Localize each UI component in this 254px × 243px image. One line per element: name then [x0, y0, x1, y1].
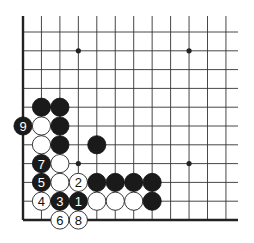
white-stone-icon [32, 117, 50, 135]
black-stone [88, 136, 106, 154]
black-stone [143, 173, 161, 191]
black-stone-move-9: 9 [14, 117, 32, 135]
white-stone-move-8: 8 [69, 211, 87, 229]
black-stone-move-3: 3 [51, 192, 69, 210]
black-stone [106, 173, 124, 191]
move-number: 4 [38, 194, 45, 209]
black-stone-move-5: 5 [32, 173, 50, 191]
white-stone-move-2: 2 [69, 173, 87, 191]
black-stone-icon [51, 117, 69, 135]
black-stone [51, 117, 69, 135]
black-stone [51, 98, 69, 116]
black-stone-icon [88, 173, 106, 191]
white-stone [88, 192, 106, 210]
star-point [76, 161, 81, 166]
black-stone [143, 192, 161, 210]
white-stone-move-4: 4 [32, 192, 50, 210]
black-stone-icon [143, 192, 161, 210]
black-stone-icon [106, 173, 124, 191]
star-point [186, 161, 191, 166]
white-stone [106, 192, 124, 210]
white-stone-icon [106, 192, 124, 210]
star-point [76, 48, 81, 53]
white-stone [32, 136, 50, 154]
black-stone-move-1: 1 [69, 192, 87, 210]
white-stone-icon [51, 173, 69, 191]
black-stone-icon [143, 173, 161, 191]
white-stone-icon [32, 136, 50, 154]
white-stone-icon [125, 192, 143, 210]
white-stone [32, 117, 50, 135]
black-stone [125, 173, 143, 191]
black-stone-icon [125, 173, 143, 191]
black-stone-icon [88, 136, 106, 154]
black-stone-icon [32, 98, 50, 116]
white-stone [51, 173, 69, 191]
black-stone-icon [51, 98, 69, 116]
black-stone [32, 98, 50, 116]
move-number: 3 [56, 194, 63, 209]
black-stone-move-7: 7 [32, 155, 50, 173]
white-stone-icon [88, 192, 106, 210]
move-number: 5 [38, 175, 45, 190]
black-stone-icon [51, 136, 69, 154]
move-number: 7 [38, 157, 45, 172]
move-number: 6 [56, 213, 63, 228]
black-stone [51, 136, 69, 154]
star-point [186, 48, 191, 53]
white-stone-icon [51, 155, 69, 173]
move-number: 9 [19, 119, 26, 134]
white-stone [51, 155, 69, 173]
go-board: 975243168 [0, 0, 254, 243]
move-number: 2 [75, 175, 82, 190]
move-number: 8 [75, 213, 82, 228]
move-number: 1 [75, 194, 82, 209]
white-stone-move-6: 6 [51, 211, 69, 229]
black-stone [88, 173, 106, 191]
white-stone [125, 192, 143, 210]
